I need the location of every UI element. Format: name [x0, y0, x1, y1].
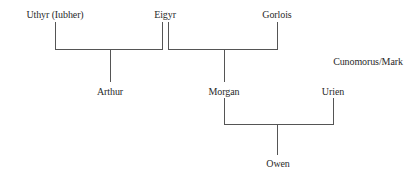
node-owen: Owen — [266, 158, 289, 170]
union-uthyr-eigyr — [56, 22, 163, 82]
node-uthyr: Uthyr (Iubher) — [26, 9, 83, 21]
node-urien: Urien — [322, 86, 344, 98]
node-arthur: Arthur — [97, 86, 123, 98]
node-eigyr: Eigyr — [154, 9, 176, 21]
family-tree-diagram: Uthyr (Iubher) Eigyr Gorlois Cunomorus/M… — [0, 0, 416, 179]
node-morgan: Morgan — [209, 86, 240, 98]
node-gorlois: Gorlois — [262, 9, 291, 21]
union-eigyr-gorlois — [169, 22, 278, 82]
union-morgan-urien — [225, 98, 334, 155]
node-cunomorus-mark: Cunomorus/Mark — [333, 56, 403, 68]
